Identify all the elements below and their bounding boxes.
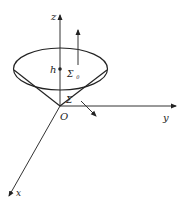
origin-label: O: [60, 111, 68, 122]
height-label: h: [50, 64, 56, 75]
top-surface-symbol: Σ: [66, 69, 74, 79]
x-axis: [9, 106, 60, 196]
y-axis-label: y: [162, 112, 169, 123]
lateral-normal-arrow: [81, 101, 96, 116]
height-point: [58, 67, 62, 71]
cone-diagram: z y x O h Σ 0 Σ: [0, 0, 185, 210]
cone-side-left: [14, 70, 60, 106]
top-surface-label: Σ 0: [66, 69, 80, 80]
lateral-surface-label: Σ: [65, 95, 73, 105]
z-axis-label: z: [50, 11, 57, 22]
x-axis-label: x: [16, 188, 21, 198]
top-surface-subscript: 0: [76, 74, 80, 80]
